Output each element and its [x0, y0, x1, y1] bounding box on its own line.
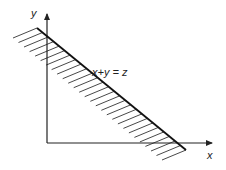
diagram-svg	[0, 0, 226, 170]
hatching	[13, 28, 186, 160]
x-axis-label: x	[207, 150, 213, 161]
y-axis-label: y	[31, 8, 37, 19]
diagram-canvas: y x x+y = z	[0, 0, 226, 170]
line-equation-label: x+y = z	[92, 67, 127, 78]
boundary-line	[37, 28, 186, 150]
